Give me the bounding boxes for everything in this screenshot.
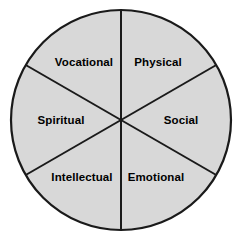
sector-label-intellectual: Intellectual (51, 171, 112, 183)
sector-label-physical: Physical (134, 56, 181, 68)
sector-label-spiritual: Spiritual (38, 114, 85, 126)
wellness-wheel-chart: Physical Social Emotional Intellectual S… (0, 0, 247, 240)
sector-label-vocational: Vocational (55, 56, 113, 68)
sector-label-emotional: Emotional (128, 171, 185, 183)
wellness-wheel-figure: Physical Social Emotional Intellectual S… (0, 0, 247, 240)
sector-label-social: Social (164, 114, 198, 126)
